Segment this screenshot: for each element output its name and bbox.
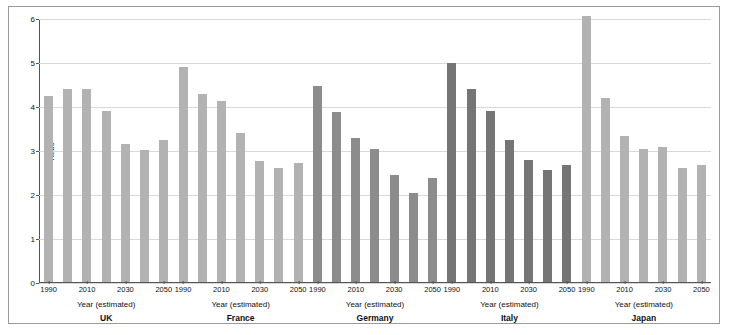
x-tick-mark bbox=[567, 281, 568, 284]
x-tick-mark bbox=[87, 281, 88, 284]
bar bbox=[140, 150, 149, 283]
x-tick-label: 2030 bbox=[655, 285, 672, 294]
bar bbox=[582, 16, 591, 283]
x-tick-label: 1990 bbox=[40, 285, 57, 294]
x-tick-label: 2050 bbox=[559, 285, 576, 294]
bar bbox=[332, 112, 341, 283]
bar bbox=[236, 133, 245, 283]
panel-name-label: Japan bbox=[577, 313, 711, 323]
x-tick-mark bbox=[317, 281, 318, 284]
panel-x-axis-title: Year (estimated) bbox=[308, 300, 442, 309]
y-tick-label: 2 bbox=[21, 190, 35, 201]
bar bbox=[639, 149, 648, 283]
x-tick-label: 2030 bbox=[251, 285, 268, 294]
x-tick-mark bbox=[394, 281, 395, 284]
bar bbox=[159, 140, 168, 283]
x-tick-mark bbox=[221, 281, 222, 284]
bar bbox=[601, 98, 610, 283]
panel-name-label: Italy bbox=[442, 313, 576, 323]
x-tick-label: 2010 bbox=[213, 285, 230, 294]
x-tick-label: 2030 bbox=[386, 285, 403, 294]
bar-group bbox=[39, 19, 173, 283]
panel-name-label: Germany bbox=[308, 313, 442, 323]
bar bbox=[44, 96, 53, 283]
x-axis-line bbox=[39, 282, 173, 283]
panel-x-axis-title: Year (estimated) bbox=[442, 300, 576, 309]
bar bbox=[102, 111, 111, 283]
x-tick-label: 1990 bbox=[443, 285, 460, 294]
x-tick-labels: 1990201020302050 bbox=[173, 285, 307, 297]
bar bbox=[63, 89, 72, 283]
x-tick-label: 2010 bbox=[79, 285, 96, 294]
bar bbox=[447, 63, 456, 283]
bar-group bbox=[173, 19, 307, 283]
x-tick-label: 1990 bbox=[175, 285, 192, 294]
bar bbox=[217, 101, 226, 283]
x-tick-mark bbox=[356, 281, 357, 284]
x-tick-label: 1990 bbox=[578, 285, 595, 294]
x-tick-mark bbox=[49, 281, 50, 284]
x-tick-labels: 1990201020302050 bbox=[442, 285, 576, 297]
x-tick-label: 2030 bbox=[520, 285, 537, 294]
bar bbox=[505, 140, 514, 283]
bar bbox=[313, 86, 322, 283]
bar-group bbox=[442, 19, 576, 283]
x-tick-labels: 1990201020302050 bbox=[39, 285, 173, 297]
x-tick-label: 2030 bbox=[117, 285, 134, 294]
panel-name-label: UK bbox=[39, 313, 173, 323]
bar bbox=[82, 89, 91, 283]
panel-container: 1990201020302050Year (estimated)UK199020… bbox=[39, 19, 711, 283]
plot-area: Ratio 0123456 1990201020302050Year (esti… bbox=[39, 19, 711, 295]
y-tick-label: 6 bbox=[21, 14, 35, 25]
x-tick-label: 2050 bbox=[424, 285, 441, 294]
y-tick-label: 5 bbox=[21, 58, 35, 69]
x-axis-line bbox=[442, 282, 576, 283]
x-tick-mark bbox=[298, 281, 299, 284]
bar-group bbox=[577, 19, 711, 283]
x-tick-mark bbox=[260, 281, 261, 284]
y-gridline-0: 0 bbox=[39, 283, 711, 284]
bar bbox=[678, 168, 687, 283]
x-tick-label: 1990 bbox=[309, 285, 326, 294]
bar bbox=[543, 170, 552, 283]
x-axis-line bbox=[308, 282, 442, 283]
y-tick-label: 3 bbox=[21, 146, 35, 157]
bar bbox=[370, 149, 379, 283]
x-tick-mark bbox=[452, 281, 453, 284]
x-tick-mark bbox=[586, 281, 587, 284]
panel-x-axis-title: Year (estimated) bbox=[173, 300, 307, 309]
x-tick-mark bbox=[164, 281, 165, 284]
x-tick-labels: 1990201020302050 bbox=[577, 285, 711, 297]
panel-x-axis-title: Year (estimated) bbox=[577, 300, 711, 309]
bar bbox=[697, 165, 706, 283]
x-tick-mark bbox=[490, 281, 491, 284]
x-tick-label: 2010 bbox=[347, 285, 364, 294]
x-tick-label: 2010 bbox=[482, 285, 499, 294]
panel-japan: 1990201020302050Year (estimated)Japan bbox=[577, 19, 711, 283]
y-tick-mark bbox=[36, 283, 39, 284]
bar bbox=[255, 161, 264, 283]
x-tick-label: 2050 bbox=[155, 285, 172, 294]
x-tick-mark bbox=[663, 281, 664, 284]
x-tick-label: 2010 bbox=[616, 285, 633, 294]
panel-italy: 1990201020302050Year (estimated)Italy bbox=[442, 19, 576, 283]
x-axis-line bbox=[173, 282, 307, 283]
bar bbox=[274, 168, 283, 283]
bar bbox=[198, 94, 207, 283]
x-tick-mark bbox=[625, 281, 626, 284]
panel-x-axis-title: Year (estimated) bbox=[39, 300, 173, 309]
bar bbox=[351, 138, 360, 283]
bar-group bbox=[308, 19, 442, 283]
x-tick-mark bbox=[183, 281, 184, 284]
x-tick-mark bbox=[125, 281, 126, 284]
bar bbox=[658, 147, 667, 283]
bar bbox=[428, 178, 437, 283]
x-tick-mark bbox=[701, 281, 702, 284]
bar bbox=[294, 163, 303, 283]
bar bbox=[390, 175, 399, 283]
bar bbox=[467, 89, 476, 283]
x-tick-mark bbox=[529, 281, 530, 284]
bar bbox=[562, 165, 571, 283]
bar bbox=[620, 136, 629, 283]
y-tick-label: 1 bbox=[21, 234, 35, 245]
